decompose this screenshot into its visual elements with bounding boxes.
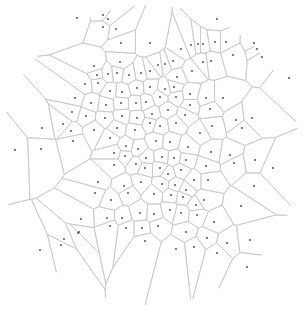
seed-point [197, 43, 199, 45]
seed-point [216, 252, 218, 254]
seed-point [185, 231, 187, 233]
voronoi-edge [246, 173, 260, 174]
seed-point [128, 74, 130, 76]
seed-point [195, 204, 197, 206]
seed-point [159, 167, 161, 169]
seed-point [261, 56, 263, 58]
seed-point [151, 113, 153, 115]
seed-point [149, 122, 151, 124]
voronoi-diagram [0, 0, 305, 312]
seed-point [193, 179, 195, 181]
seed-point [145, 101, 147, 103]
seed-point [161, 156, 163, 158]
seed-point [213, 221, 215, 223]
seed-point [109, 137, 111, 139]
seed-point [93, 129, 95, 131]
seed-point [210, 151, 212, 153]
seed-point [97, 181, 99, 183]
seed-point [175, 248, 177, 250]
seed-point [240, 205, 242, 207]
seed-point [144, 167, 146, 169]
seed-point [210, 60, 212, 62]
voronoi-edge [162, 193, 163, 202]
seed-point [135, 163, 137, 165]
seed-point [214, 41, 216, 43]
seed-point [136, 87, 138, 89]
seed-point [182, 196, 184, 198]
seed-point [233, 162, 235, 164]
seed-point [127, 192, 129, 194]
seed-point [62, 123, 64, 125]
seed-point [80, 218, 82, 220]
seed-point [167, 109, 169, 111]
seed-point [119, 61, 121, 63]
voronoi-edge [105, 128, 107, 129]
seed-point [253, 42, 255, 44]
seed-point [164, 88, 166, 90]
seed-point [96, 74, 98, 76]
seed-point [161, 183, 163, 185]
seed-point [184, 114, 186, 116]
seed-point [206, 237, 208, 239]
seed-point [189, 93, 191, 95]
seed-point [272, 167, 274, 169]
seed-point [39, 249, 41, 251]
seed-point [180, 48, 182, 50]
seed-point [157, 64, 159, 66]
seed-point [74, 97, 76, 99]
seed-point [141, 227, 143, 229]
seed-point [216, 18, 218, 20]
seed-point [149, 42, 151, 44]
voronoi-edge [152, 177, 153, 178]
seed-point [159, 96, 161, 98]
seed-point [102, 14, 104, 16]
background [0, 0, 305, 312]
seed-point [14, 149, 16, 151]
seed-point [155, 140, 157, 142]
seed-point [187, 146, 189, 148]
seed-point [72, 140, 74, 142]
seed-point [172, 60, 174, 62]
seed-point [170, 194, 172, 196]
seed-point [209, 108, 211, 110]
seed-point [175, 122, 177, 124]
seed-point [149, 70, 151, 72]
seed-point [202, 43, 204, 45]
seed-point [134, 129, 136, 131]
voronoi-edge [55, 139, 56, 140]
seed-point [60, 244, 62, 246]
seed-point [164, 63, 166, 65]
seed-point [173, 157, 175, 159]
seed-point [232, 54, 234, 56]
seed-point [70, 130, 72, 132]
seed-point [125, 227, 127, 229]
seed-point [222, 97, 224, 99]
seed-point [153, 213, 155, 215]
seed-point [115, 28, 117, 30]
seed-point [113, 152, 115, 154]
seed-point [124, 155, 126, 157]
seed-point [93, 65, 95, 67]
seed-point [241, 127, 243, 129]
seed-point [145, 157, 147, 159]
seed-point [256, 48, 258, 50]
seed-point [94, 192, 96, 194]
seed-point [157, 225, 159, 227]
seed-point [235, 119, 237, 121]
seed-point [226, 242, 228, 244]
seed-point [109, 225, 111, 227]
seed-point [207, 179, 209, 181]
seed-point [149, 86, 151, 88]
seed-point [249, 239, 251, 241]
seed-point [153, 193, 155, 195]
seed-point [202, 61, 204, 63]
seed-point [175, 96, 177, 98]
seed-point [174, 184, 176, 186]
seed-point [107, 73, 109, 75]
seed-point [185, 189, 187, 191]
seed-point [63, 238, 65, 240]
seed-point [140, 72, 142, 74]
seed-point [253, 185, 255, 187]
seed-point [105, 104, 107, 106]
seed-point [121, 115, 123, 117]
